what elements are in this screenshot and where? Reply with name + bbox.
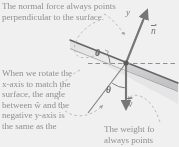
- caption-left-line1: When we rotate the: [2, 68, 72, 79]
- vector-arrow-accent-w: [126, 97, 133, 100]
- caption-top-line1: The normal force always points: [2, 1, 116, 12]
- axis-y-label: y: [126, 7, 130, 17]
- caption-left-line5: negative y-axis is: [2, 110, 72, 121]
- origin-point: [123, 60, 128, 65]
- angle-arc-bottom: [112, 83, 126, 88]
- physics-inclined-plane-figure: The normal force always points perpendic…: [0, 0, 179, 147]
- weight-force-label: w: [126, 99, 132, 109]
- vector-arrow-accent-n: [151, 24, 157, 27]
- caption-left-line2: x-axis to match the: [2, 79, 72, 90]
- incline-bottom-edge: [70, 49, 178, 92]
- caption-left-line4: between ŵ and the: [2, 100, 72, 111]
- caption-left-line3: surface, the angle: [2, 89, 72, 100]
- normal-force-vector-arrow: [126, 13, 146, 63]
- weight-force-label-text: w: [126, 99, 132, 109]
- caption-top-line2: perpendicular to the surface.: [2, 12, 116, 23]
- angle-label-top: θ: [95, 48, 100, 58]
- normal-force-label-text: n: [151, 26, 156, 36]
- caption-right-line2: always points: [104, 135, 154, 146]
- caption-right: The weight fo always points: [104, 124, 154, 145]
- caption-top: The normal force always points perpendic…: [2, 1, 116, 22]
- caption-right-line1: The weight fo: [104, 124, 154, 135]
- normal-force-label: n: [151, 26, 156, 36]
- caption-left: When we rotate the x-axis to match the s…: [2, 68, 72, 132]
- angle-label-bottom: θ: [106, 85, 111, 95]
- leader-line-right-caption: [129, 95, 160, 122]
- caption-left-line6: the same as the: [2, 121, 72, 132]
